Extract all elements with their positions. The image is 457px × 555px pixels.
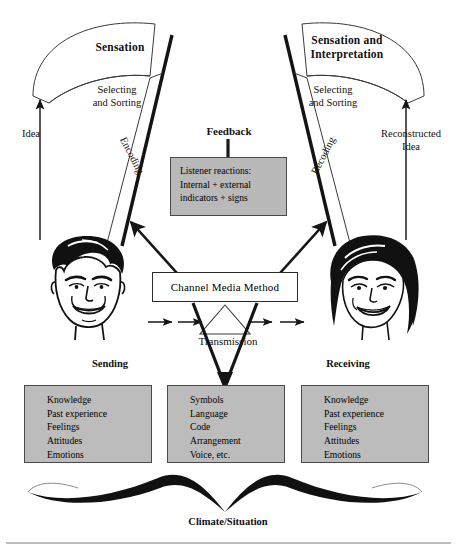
sensation-right-label: Sensation and Interpretation [272,33,422,61]
feedback-box: Listener reactions: Internal + external … [170,157,287,216]
idea-label: Idea [2,128,60,141]
climate-situation-label: Climate/Situation [158,516,298,529]
selecting-sorting-left-label: Selecting and Sorting [62,84,172,110]
climate-flourish [28,475,422,512]
channel-media-method-box: Channel Media Method [152,272,298,302]
reconstructed-idea-label: Reconstructed Idea [366,128,456,154]
female-face-icon [330,235,418,340]
sensation-left-label: Sensation [40,40,200,54]
message-attributes-box: Symbols Language Code Arrangement Voice,… [167,385,285,463]
transmission-label: Transmission [180,335,276,348]
sending-label: Sending [62,358,158,371]
male-face-icon [51,236,124,340]
communication-model-diagram: Sensation Sensation and Interpretation S… [0,0,457,555]
feedback-title: Feedback [179,125,279,138]
receiving-label: Receiving [300,358,396,371]
transmission-triangle [200,305,250,334]
receiver-attributes-box: Knowledge Past experience Feelings Attit… [301,385,429,463]
selecting-sorting-right-label: Selecting and Sorting [278,84,388,110]
sender-attributes-box: Knowledge Past experience Feelings Attit… [24,385,152,463]
